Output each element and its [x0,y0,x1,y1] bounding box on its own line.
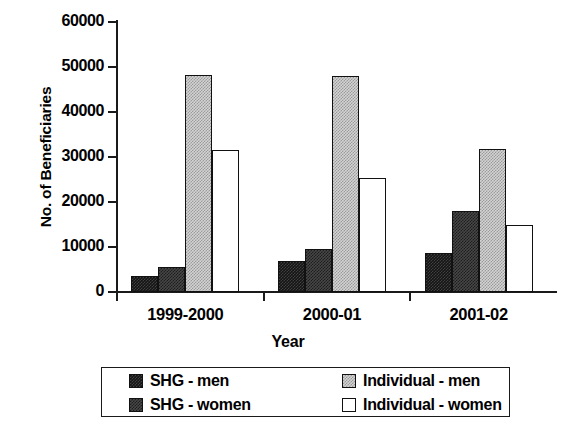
x-axis-category-label: 2001-02 [394,305,564,324]
bar-individual-men-2001-02 [479,149,506,292]
y-axis-tick-mark [108,66,117,68]
y-axis-tick-label: 0 [12,283,104,299]
x-axis-tick-mark [409,292,411,301]
y-axis-tick-mark [108,201,117,203]
y-axis-tick-labels: 0100002000030000400005000060000 [8,0,104,300]
y-axis-tick-label: 40000 [12,103,104,119]
y-axis-tick-label: 60000 [12,13,104,29]
bar-shg-men-2000-01 [278,261,305,293]
x-axis-category-label: 2000-01 [247,305,417,324]
bar-individual-women-2001-02 [506,225,533,293]
x-axis-category-label: 1999-2000 [100,305,270,324]
x-axis-tick-mark [116,292,118,301]
legend-item[interactable]: SHG - men [129,369,334,393]
bar-shg-men-1999-2000 [131,276,158,292]
plot-area [116,22,556,292]
y-axis-tick-mark [108,111,117,113]
legend-swatch-icon [342,374,356,388]
y-axis-tick-mark [108,21,117,23]
legend-item[interactable]: SHG - women [129,393,334,417]
y-axis-tick-mark [108,246,117,248]
legend-swatch-icon [129,374,143,388]
legend-label: Individual - men [363,373,480,389]
legend-label: SHG - men [150,373,229,389]
bar-shg-women-2001-02 [452,211,479,292]
bar-shg-women-1999-2000 [158,267,185,292]
bar-chart-figure: No. of Beneficiaries 0100002000030000400… [0,0,576,435]
chart-legend: SHG - menIndividual - menSHG - womenIndi… [101,367,510,417]
y-axis-tick-label: 50000 [12,58,104,74]
y-axis-tick-label: 10000 [12,238,104,254]
bar-individual-women-2000-01 [359,178,386,292]
legend-swatch-icon [342,398,356,412]
legend-item[interactable]: Individual - men [334,369,538,393]
legend-swatch-icon [129,398,143,412]
y-axis-tick-mark [108,156,117,158]
y-axis-tick-label: 30000 [12,148,104,164]
y-axis-tick-label: 20000 [12,193,104,209]
x-axis-tick-mark [263,292,265,301]
bar-shg-men-2001-02 [425,253,452,292]
bar-individual-men-2000-01 [332,76,359,292]
legend-item[interactable]: Individual - women [334,393,538,417]
legend-label: Individual - women [363,397,502,413]
bar-individual-women-1999-2000 [212,150,239,292]
bar-shg-women-2000-01 [305,249,332,292]
legend-label: SHG - women [150,397,251,413]
bar-individual-men-1999-2000 [185,75,212,292]
x-axis-title: Year [0,333,576,351]
